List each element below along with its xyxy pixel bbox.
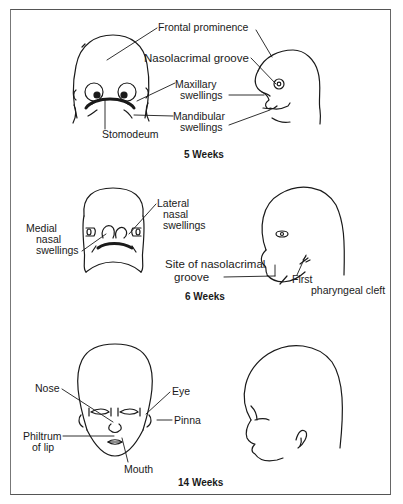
label-site-nasolacrimal-line1: Site of nasolacrimal <box>165 258 265 270</box>
label-first-line1: First <box>292 274 312 285</box>
five-week-side-view <box>255 50 320 124</box>
fourteen-week-front-view <box>78 344 153 456</box>
label-nose: Nose <box>35 383 60 394</box>
label-maxillary-line2: swellings <box>180 90 223 101</box>
label-pinna: Pinna <box>174 415 201 426</box>
label-mandibular-line2: swellings <box>180 122 223 133</box>
label-medial-line3: swellings <box>36 245 79 256</box>
five-week-front-view <box>73 35 149 123</box>
label-stomodeum: Stomodeum <box>102 129 159 140</box>
label-philtrum-line2: of lip <box>32 442 54 453</box>
label-site-nasolacrimal-line2: groove <box>174 271 209 283</box>
caption-6-weeks: 6 Weeks <box>185 291 225 302</box>
label-nasolacrimal-groove: Nasolacrimal groove <box>144 52 249 64</box>
label-eye: Eye <box>172 386 190 397</box>
fourteen-week-side-view <box>244 346 342 461</box>
label-pharyngeal-cleft-line2: pharyngeal cleft <box>311 285 385 296</box>
caption-14-weeks: 14 Weeks <box>178 477 223 488</box>
six-week-front-view <box>83 188 144 272</box>
six-week-side-view <box>261 187 344 284</box>
label-lateral-line3: swellings <box>163 220 206 231</box>
label-mouth: Mouth <box>124 464 153 475</box>
caption-5-weeks: 5 Weeks <box>184 149 224 160</box>
label-frontal-prominence: Frontal prominence <box>158 22 248 33</box>
